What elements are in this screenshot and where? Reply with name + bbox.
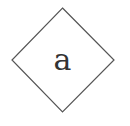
node-label: a bbox=[54, 42, 72, 77]
diagram-canvas: a bbox=[0, 0, 130, 126]
decision-node: a bbox=[12, 8, 114, 112]
